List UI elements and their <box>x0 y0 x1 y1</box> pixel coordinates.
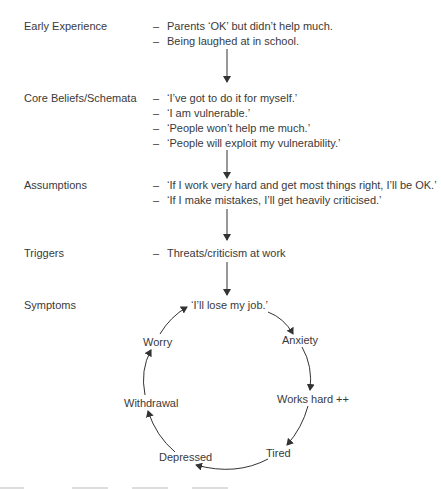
cycle-node-anxiety: Anxiety <box>282 334 318 346</box>
cycle-node-depressed: Depressed <box>159 451 212 463</box>
clipped-caption <box>0 484 240 489</box>
cycle-node-withdrawal: Withdrawal <box>124 397 178 409</box>
diagram-connectors <box>0 0 441 489</box>
cycle-node-worry: Worry <box>143 336 172 348</box>
cycle-node-lose-job: ‘I’ll lose my job.’ <box>191 299 268 311</box>
cycle-node-works-hard: Works hard ++ <box>277 393 349 405</box>
cycle-arrow-icons <box>143 307 310 469</box>
cycle-node-tired: Tired <box>266 447 291 459</box>
